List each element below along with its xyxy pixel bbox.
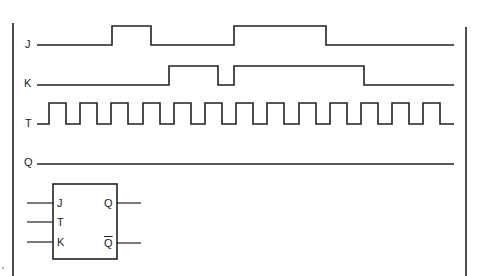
signal-label-j: J <box>25 39 31 50</box>
waveform-k <box>37 66 454 85</box>
jk-flipflop-timing-diagram: J K T Q J T K Q Q <box>0 0 482 276</box>
block-input-t: T <box>57 217 64 228</box>
timing-diagram-canvas <box>0 0 482 276</box>
waveform-t-clock <box>37 103 454 124</box>
signal-label-k: K <box>24 78 31 89</box>
signal-label-q: Q <box>24 157 33 168</box>
block-input-k: K <box>57 237 64 248</box>
signal-label-t: T <box>25 118 32 129</box>
waveform-j <box>37 26 454 45</box>
block-input-j: J <box>57 198 63 209</box>
block-output-q-bar: Q <box>104 238 113 249</box>
block-output-q: Q <box>104 198 113 209</box>
stray-mark <box>2 267 4 269</box>
